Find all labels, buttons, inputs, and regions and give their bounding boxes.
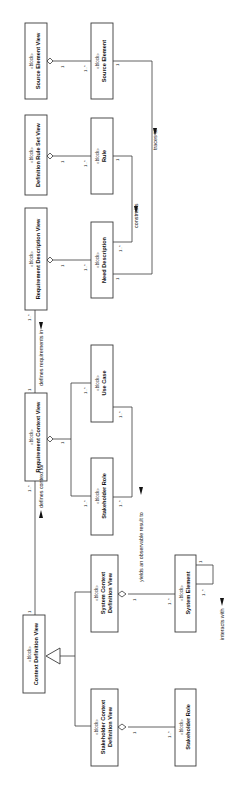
block-stakeholder-context-definition-view[interactable]: «block» Stakeholder Context Definition V…: [91, 689, 118, 766]
composition-diamond-icon: [47, 58, 53, 64]
interacts-with-line: [196, 565, 213, 584]
multiplicity: 1..*: [83, 160, 88, 167]
svg-text:Source Element View: Source Element View: [35, 32, 41, 89]
multiplicity: 1: [27, 388, 32, 391]
svg-text:Context Definition View: Context Definition View: [33, 622, 39, 685]
svg-text:«block»: «block»: [95, 53, 100, 69]
block-source-element[interactable]: «block» Source Element: [91, 23, 113, 99]
multiplicity: 1: [132, 731, 137, 734]
block-need-description[interactable]: «block» Need Description: [91, 222, 113, 298]
multiplicity: 1: [60, 441, 65, 444]
multiplicity: 1..*: [27, 314, 32, 321]
interacts-with-arrow-icon: [220, 598, 224, 606]
svg-text:«block»: «block»: [94, 719, 99, 735]
svg-text:Requirement Context View: Requirement Context View: [35, 401, 41, 472]
multiplicity: 1: [60, 160, 65, 163]
multiplicity: 1..*: [118, 500, 123, 507]
svg-text:«block»: «block»: [29, 251, 34, 267]
label-defines-requirements-in: defines requirements in: [38, 330, 44, 386]
multiplicity: 1..*: [83, 264, 88, 271]
block-context-definition-view[interactable]: «block» Context Definition View: [23, 615, 45, 693]
svg-text:«block»: «block»: [95, 252, 100, 268]
svg-text:«block»: «block»: [179, 585, 184, 601]
block-stakeholder-role-requirement-context[interactable]: «block» Stakeholder Role: [91, 458, 113, 535]
block-definition-rule-set-view[interactable]: «block» Definition Rule Set View: [25, 115, 47, 195]
multiplicity: 1: [132, 598, 137, 601]
multiplicity: 1: [115, 158, 120, 161]
yields-result-arrow-icon: [139, 487, 143, 495]
svg-text:Stakeholder Context: Stakeholder Context: [100, 700, 106, 755]
multiplicity: 1: [27, 610, 32, 613]
block-requirement-description-view[interactable]: «block» Requirement Description View: [25, 208, 47, 310]
label-traces-to: traces to: [152, 129, 158, 150]
defines-requirements-arrow-icon: [39, 322, 43, 330]
multiplicity: 1: [198, 560, 203, 563]
multiplicity: 1..*: [118, 245, 123, 252]
multiplicity: 1: [60, 264, 65, 267]
svg-text:«block»: «block»: [95, 375, 100, 391]
multiplicity: 1..*: [118, 411, 123, 418]
multiplicity: 1..*: [83, 387, 88, 394]
block-stakeholder-role-stakeholder-context[interactable]: «block» Stakeholder Role: [175, 689, 196, 766]
multiplicity: 1..*: [167, 731, 172, 738]
svg-text:Definition View: Definition View: [107, 572, 113, 613]
composition-diamond-icon: [47, 436, 53, 442]
block-source-element-view[interactable]: «block» Source Element View: [25, 23, 47, 99]
multiplicity: 1..*: [83, 65, 88, 72]
svg-text:Stakeholder Role: Stakeholder Role: [185, 704, 191, 750]
multiplicity: 1..*: [27, 485, 32, 492]
sysml-block-diagram: «block» Source Element View «block» Sour…: [0, 0, 234, 796]
multiplicity: 1..*: [83, 500, 88, 507]
multiplicity: 1: [115, 63, 120, 66]
svg-text:«block»: «block»: [95, 148, 100, 164]
composition-diamond-icon: [118, 724, 126, 730]
multiplicity: 1..*: [167, 598, 172, 605]
block-use-case[interactable]: «block» Use Case: [91, 345, 113, 422]
svg-text:«block»: «block»: [29, 429, 34, 445]
composition-diamond-icon: [47, 153, 53, 159]
block-rule[interactable]: «block» Rule: [91, 118, 113, 194]
multiplicity: 1: [60, 65, 65, 68]
yields-result-line: [113, 407, 132, 497]
label-yields-observable-result: yields an observable result to: [138, 512, 144, 582]
svg-text:Need Description: Need Description: [101, 236, 107, 283]
label-constrains: constrains: [133, 203, 139, 228]
svg-text:Requirement Description View: Requirement Description View: [35, 218, 41, 299]
svg-text:Rule: Rule: [101, 150, 107, 162]
svg-text:System Element: System Element: [185, 571, 191, 614]
composition-diamond-icon: [118, 591, 126, 597]
multiplicity: 1: [115, 277, 120, 280]
label-interacts-with: interacts with: [219, 609, 225, 640]
block-system-element[interactable]: «block» System Element: [175, 555, 196, 632]
svg-text:Definition View: Definition View: [107, 706, 113, 747]
svg-text:Definition Rule Set View: Definition Rule Set View: [35, 122, 41, 187]
svg-text:System Context: System Context: [100, 572, 106, 614]
svg-text:«block»: «block»: [94, 585, 99, 601]
svg-text:Use Case: Use Case: [101, 370, 107, 395]
block-system-context-definition-view[interactable]: «block» System Context Definition View: [91, 555, 118, 632]
svg-text:«block»: «block»: [95, 488, 100, 504]
svg-text:«block»: «block»: [29, 147, 34, 163]
svg-text:Stakeholder Role: Stakeholder Role: [101, 473, 107, 519]
constrains-line: [113, 156, 132, 242]
composition-diamond-icon: [47, 257, 53, 263]
generalization-arrow-icon: [46, 648, 60, 664]
svg-text:«block»: «block»: [179, 719, 184, 735]
svg-text:«block»: «block»: [29, 53, 34, 69]
svg-text:Source Element: Source Element: [101, 40, 107, 82]
label-defines-context-for: defines context for: [38, 464, 44, 508]
svg-text:«block»: «block»: [27, 646, 32, 662]
defines-context-arrow-icon: [39, 510, 43, 518]
multiplicity: 1..*: [201, 589, 206, 596]
